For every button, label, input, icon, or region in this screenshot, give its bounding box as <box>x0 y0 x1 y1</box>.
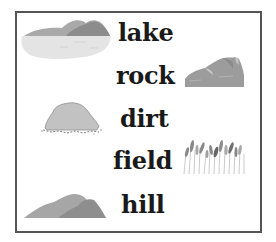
word-dirt: dirt <box>120 107 168 131</box>
word-lake: lake <box>118 21 173 45</box>
dirt-picture <box>39 100 105 136</box>
hill-picture <box>22 188 108 220</box>
field-picture <box>180 136 250 176</box>
lake-picture <box>20 14 112 60</box>
word-hill: hill <box>121 193 165 217</box>
word-rock: rock <box>116 64 175 88</box>
rock-picture <box>183 55 247 89</box>
word-field: field <box>113 149 172 173</box>
